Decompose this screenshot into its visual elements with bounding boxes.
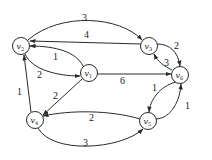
node-subscript: 2 [21, 46, 24, 52]
edge-v1-v2: 1 [30, 46, 83, 66]
edge-v3-v2: 4 [30, 29, 141, 44]
edge-weight-label: 3 [83, 137, 88, 148]
edge-weight-label: 1 [185, 100, 190, 111]
node-subscript: 4 [35, 120, 38, 126]
edge-weight-label: 2 [174, 40, 179, 51]
edge-v1-v6: 6 [98, 74, 171, 86]
node-v1: v1 [81, 65, 98, 82]
edge-weight-label: 2 [53, 90, 58, 101]
edge-weight-label: 3 [82, 12, 87, 23]
node-v3: v3 [141, 38, 158, 55]
node-subscript: 1 [89, 73, 92, 79]
graph-canvas: 3 4 1 2 6 2 3 2 1 2 3 1 [0, 0, 212, 160]
node-v2: v2 [13, 38, 30, 55]
node-subscript: 5 [148, 121, 151, 127]
edge-weight-label: 2 [37, 69, 42, 80]
edge-weight-label: 1 [17, 86, 22, 97]
edge-v5-v4: 2 [43, 112, 140, 123]
node-v4: v4 [27, 112, 44, 129]
edge-weight-label: 1 [53, 51, 58, 62]
node-subscript: 3 [149, 46, 152, 52]
edge-weight-label: 3 [164, 57, 169, 68]
node-v5: v5 [140, 113, 157, 130]
edge-weight-label: 4 [84, 29, 89, 40]
edge-v1-v4: 2 [43, 79, 82, 115]
edge-weight-label: 6 [120, 75, 125, 86]
edge-v4-v5: 3 [38, 128, 143, 148]
edge-v6-v3: 3 [154, 54, 172, 70]
node-subscript: 6 [180, 75, 183, 81]
edge-v4-v2: 1 [17, 55, 31, 112]
edge-weight-label: 1 [152, 82, 157, 93]
edge-v6-v5: 1 [149, 82, 176, 112]
edge-weight-label: 2 [89, 112, 94, 123]
node-v6: v6 [172, 67, 189, 84]
